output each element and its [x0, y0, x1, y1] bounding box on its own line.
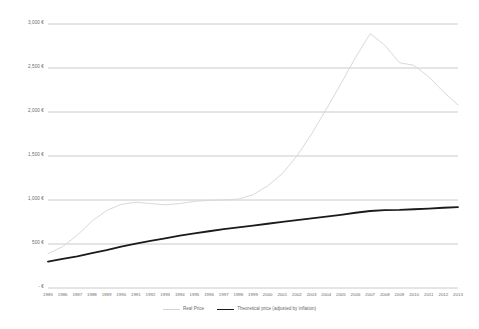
- legend-swatch-real-price: [163, 309, 180, 310]
- x-axis-label-2000: 2000: [263, 293, 273, 297]
- x-axis-label-1985: 1985: [43, 293, 53, 297]
- x-axis-label-2001: 2001: [277, 293, 287, 297]
- x-axis-label-1995: 1995: [190, 293, 200, 297]
- plot-area: [0, 0, 479, 329]
- x-axis-label-2003: 2003: [307, 293, 317, 297]
- x-axis-label-2004: 2004: [321, 293, 331, 297]
- x-axis-label-1991: 1991: [131, 293, 141, 297]
- x-axis-label-2008: 2008: [380, 293, 390, 297]
- series-line-theoretical-price: [48, 207, 458, 262]
- x-axis-label-2013: 2013: [453, 293, 463, 297]
- x-axis-label-1986: 1986: [58, 293, 68, 297]
- line-chart: 3,000 € 2,500 € 2,000 € 1,500 € 1,000 € …: [0, 0, 479, 329]
- x-axis-label-1998: 1998: [233, 293, 243, 297]
- x-axis-label-1996: 1996: [204, 293, 214, 297]
- legend-entry-real-price[interactable]: Real Price: [163, 307, 204, 312]
- x-axis-label-1997: 1997: [219, 293, 229, 297]
- x-axis-label-2011: 2011: [424, 293, 433, 297]
- series-line-real-price: [48, 34, 458, 254]
- chart-legend: Real Price Theoretical price (adjusted b…: [0, 307, 479, 312]
- x-axis-label-1992: 1992: [146, 293, 156, 297]
- x-axis-label-2007: 2007: [365, 293, 375, 297]
- x-axis-label-1999: 1999: [248, 293, 258, 297]
- legend-swatch-theoretical-price: [217, 309, 234, 310]
- x-axis-label-2012: 2012: [438, 293, 448, 297]
- x-axis-label-2002: 2002: [292, 293, 302, 297]
- x-axis-label-2005: 2005: [336, 293, 346, 297]
- legend-label-theoretical-price: Theoretical price (adjusted by inflation…: [237, 307, 316, 312]
- legend-label-real-price: Real Price: [183, 307, 204, 312]
- x-axis-label-1987: 1987: [72, 293, 82, 297]
- x-axis-label-1994: 1994: [175, 293, 185, 297]
- x-axis-label-2010: 2010: [409, 293, 419, 297]
- x-axis-label-2006: 2006: [351, 293, 361, 297]
- x-axis-label-1993: 1993: [160, 293, 170, 297]
- x-axis-label-1989: 1989: [102, 293, 112, 297]
- x-axis-label-1988: 1988: [87, 293, 97, 297]
- x-axis-label-1990: 1990: [116, 293, 126, 297]
- legend-entry-theoretical-price[interactable]: Theoretical price (adjusted by inflation…: [217, 307, 316, 312]
- x-axis-label-2009: 2009: [395, 293, 405, 297]
